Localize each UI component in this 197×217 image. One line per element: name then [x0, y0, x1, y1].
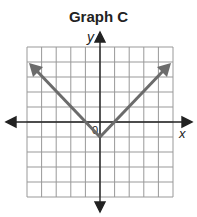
x-axis-right-arrow-icon	[182, 117, 192, 127]
x-axis-left-arrow-icon	[6, 117, 16, 127]
left-ray	[36, 70, 100, 137]
y-axis-down-arrow-icon	[95, 202, 105, 212]
y-axis-up-arrow-icon	[95, 32, 105, 42]
axes	[6, 32, 192, 212]
coordinate-plane	[0, 0, 197, 217]
right-ray	[100, 70, 164, 137]
